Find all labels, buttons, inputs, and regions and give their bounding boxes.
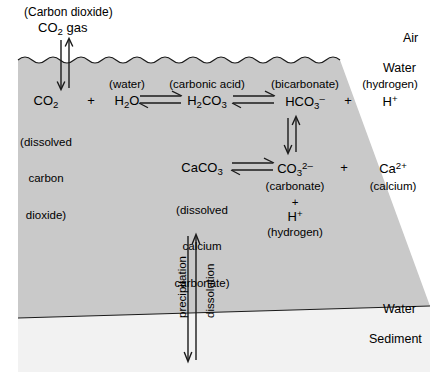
calcium-carbonate-name-line-2: calcium xyxy=(175,240,230,252)
carbonate-name-label: (carbonate) xyxy=(266,180,325,192)
plus-sign-3: + xyxy=(340,161,348,175)
calcium-formula: Ca2+ xyxy=(379,161,407,176)
dissolved-co2-name-label: (dissolved carbon dioxide) xyxy=(20,112,72,245)
co2-gas-name-label: (Carbon dioxide) xyxy=(24,6,113,19)
sediment-region-label: Sediment xyxy=(369,333,422,346)
calcium-name-label: (calcium) xyxy=(370,180,417,192)
water-region-label-top: Water xyxy=(383,62,416,75)
precipitation-label: precipitation xyxy=(176,256,188,318)
dissolved-co2-name-line-3: dioxide) xyxy=(20,209,72,221)
bicarbonate-formula: HCO3– xyxy=(285,94,325,111)
water-region-label-bottom: Water xyxy=(383,303,416,316)
calcium-carbonate-name-line-1: (dissolved xyxy=(175,204,230,216)
hydrogen-formula-top: H+ xyxy=(382,94,397,109)
plus-sign-1: + xyxy=(87,94,95,108)
bicarbonate-name-label: (bicarbonate) xyxy=(271,78,339,90)
calcium-carbonate-formula: CaCO3 xyxy=(181,161,222,177)
dissolution-label: dissolution xyxy=(204,264,216,318)
air-region-label: Air xyxy=(403,32,418,45)
plus-sign-2: + xyxy=(344,94,352,108)
dissolved-co2-name-line-2: carbon xyxy=(20,172,72,184)
co2-gas-formula: CO2 gas xyxy=(38,21,87,37)
plus-sign-4: + xyxy=(292,196,299,208)
hydrogen-formula-bottom: H+ xyxy=(287,209,302,224)
carbonate-formula: CO32– xyxy=(277,161,313,178)
carbonic-acid-name-label: (carbonic acid) xyxy=(169,78,244,90)
water-formula: H2O xyxy=(115,94,140,110)
dissolved-co2-formula: CO2 xyxy=(34,94,59,110)
carbonic-acid-formula: H2CO3 xyxy=(187,94,227,110)
hydrogen-name-label-bottom: (hydrogen) xyxy=(267,226,323,238)
carbonate-cycle-diagram: (Carbon dioxide) CO2 gas Air Water Water… xyxy=(0,0,448,390)
dissolved-co2-name-line-1: (dissolved xyxy=(20,136,72,148)
hydrogen-name-label-top: (hydrogen) xyxy=(362,78,418,90)
water-name-label: (water) xyxy=(109,78,145,90)
